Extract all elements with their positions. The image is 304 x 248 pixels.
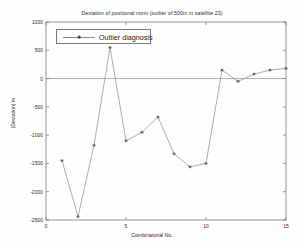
data-series-markers xyxy=(60,46,287,218)
star-marker-icon: ✱ xyxy=(77,36,80,39)
legend[interactable]: ✱ Outlier diagnosis xyxy=(56,29,151,44)
data-series-line xyxy=(62,47,286,216)
legend-label: Outlier diagnosis xyxy=(99,33,153,42)
axis-tick-marks xyxy=(46,22,286,220)
chart-figure: Deviation of positional norm (outlier of… xyxy=(0,0,304,248)
plot-frame xyxy=(46,22,286,220)
legend-line-sample: ✱ xyxy=(63,37,95,38)
